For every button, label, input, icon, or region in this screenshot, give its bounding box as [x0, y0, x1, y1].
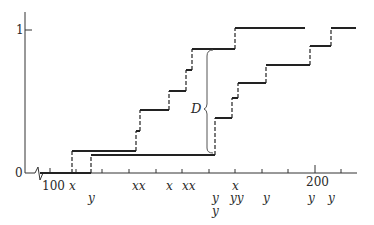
x-ticks [50, 165, 341, 173]
y-tick-label-0: 0 [15, 166, 23, 180]
svg-text:y: y [87, 191, 95, 205]
svg-text:xx: xx [182, 179, 196, 193]
svg-text:y: y [307, 191, 315, 205]
svg-text:y: y [327, 191, 335, 205]
svg-text:y: y [262, 191, 270, 205]
svg-text:x: x [69, 179, 76, 193]
ks-step-function-diagram: 1 0 100 200 D x xx x xx x [0, 0, 374, 225]
svg-text:xx: xx [132, 179, 146, 193]
y-tick-label-1: 1 [16, 23, 24, 37]
svg-text:x: x [166, 179, 173, 193]
svg-text:y: y [211, 191, 219, 205]
d-label: D [190, 101, 202, 116]
y-sample-markers: y y yy y y y y [87, 191, 335, 218]
x-tick-label-200: 200 [306, 175, 329, 189]
series-x-step-function [40, 28, 305, 173]
d-brace-icon [204, 50, 213, 153]
svg-text:y: y [211, 204, 219, 218]
x-tick-label-100: 100 [42, 179, 65, 193]
svg-text:yy: yy [229, 191, 244, 205]
